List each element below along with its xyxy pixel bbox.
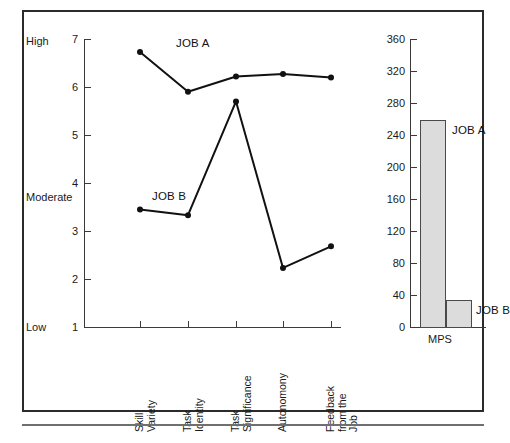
- series-line-job-a: [140, 52, 331, 92]
- bar-y-label-360: 360: [379, 34, 405, 45]
- xcat-line: Task: [229, 410, 241, 432]
- bar-y-label-320: 320: [379, 66, 405, 77]
- bar-y-label-80: 80: [379, 258, 405, 269]
- bar-y-tick-80: [411, 263, 417, 264]
- bar-y-tick-160: [411, 199, 417, 200]
- bar-label-job-a: JOB A: [452, 124, 486, 136]
- bar-y-label-40: 40: [379, 290, 405, 301]
- bar-chart-x-axis-label: MPS: [428, 334, 452, 345]
- bar-y-tick-280: [411, 103, 417, 104]
- figure-frame: 7 6 5 4 3 2 1 High Moderate Low Skill Va…: [22, 10, 484, 412]
- series-line-job-b: [140, 101, 331, 268]
- bar-y-label-120: 120: [379, 226, 405, 237]
- line-chart: 7 6 5 4 3 2 1 High Moderate Low Skill Va…: [24, 12, 354, 412]
- bar-job-b: [446, 300, 472, 328]
- data-point: [233, 98, 239, 104]
- data-point: [137, 206, 143, 212]
- data-point: [328, 74, 334, 80]
- bar-chart: 360 320 280 240 200 160 120 80 40 0 JOB …: [354, 12, 486, 412]
- xcat-line: Skill: [133, 413, 145, 432]
- bar-y-tick-120: [411, 231, 417, 232]
- bar-y-tick-0: [411, 327, 417, 328]
- data-point: [280, 71, 286, 77]
- bar-y-tick-40: [411, 295, 417, 296]
- bar-y-label-200: 200: [379, 162, 405, 173]
- data-point: [137, 49, 143, 55]
- data-point: [280, 265, 286, 271]
- data-point: [185, 89, 191, 95]
- bar-y-label-280: 280: [379, 98, 405, 109]
- series-label-job-a: JOB A: [176, 37, 210, 49]
- bar-job-a: [420, 120, 446, 328]
- data-point: [328, 243, 334, 249]
- bar-y-label-0: 0: [379, 322, 405, 333]
- bar-y-tick-360: [411, 39, 417, 40]
- series-label-job-b: JOB B: [152, 190, 186, 202]
- data-point: [233, 73, 239, 79]
- bar-label-job-b: JOB B: [476, 304, 510, 316]
- bar-y-tick-240: [411, 135, 417, 136]
- bar-chart-y-axis: [410, 39, 411, 327]
- xcat-line: Task: [181, 410, 193, 432]
- bar-y-label-160: 160: [379, 194, 405, 205]
- bar-y-label-240: 240: [379, 130, 405, 141]
- bar-y-tick-320: [411, 71, 417, 72]
- data-point: [185, 212, 191, 218]
- line-chart-series-layer: [24, 12, 354, 412]
- footer-rule: [22, 424, 484, 426]
- bar-y-tick-200: [411, 167, 417, 168]
